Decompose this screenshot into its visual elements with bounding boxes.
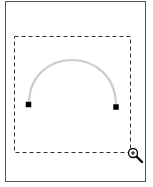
arc-start-handle[interactable] xyxy=(26,102,32,108)
arc-shape[interactable] xyxy=(29,60,116,106)
drawing-canvas[interactable] xyxy=(0,0,153,187)
selection-bounding-box[interactable] xyxy=(15,37,131,153)
arc-end-handle[interactable] xyxy=(113,104,119,110)
zoom-in-icon xyxy=(129,149,143,163)
